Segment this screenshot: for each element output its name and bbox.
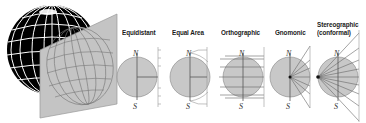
north-pole-label: N — [285, 49, 292, 58]
map-projection-diagram: N S N S — [0, 0, 366, 123]
equal-area-label: Equal Area — [172, 29, 204, 37]
gnomonic-diagram: N S — [270, 46, 310, 111]
south-pole-label: S — [334, 102, 338, 111]
south-pole-label: S — [133, 102, 137, 111]
north-pole-label: N — [238, 49, 245, 58]
equidistant-diagram: N S — [117, 47, 161, 111]
gnomonic-label: Gnomonic — [275, 29, 306, 37]
orthographic-diagram: N S — [219, 47, 264, 111]
orthographic-label: Orthographic — [221, 29, 260, 37]
stereographic-diagram: N S — [316, 30, 359, 122]
conformal-label: (conformal) — [317, 29, 351, 37]
north-pole-label: N — [185, 49, 192, 58]
equidistant-label: Equidistant — [122, 29, 155, 37]
south-pole-label: S — [286, 102, 290, 111]
south-pole-label: S — [239, 102, 243, 111]
north-pole-label: N — [132, 49, 139, 58]
south-pole-label: S — [186, 102, 190, 111]
north-pole-label: N — [333, 49, 340, 58]
equal-area-diagram: N S — [170, 47, 210, 111]
